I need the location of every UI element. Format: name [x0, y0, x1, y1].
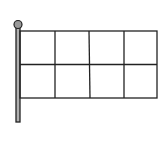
flag-illustration	[0, 0, 167, 143]
flag-pole	[14, 21, 22, 123]
flag-grid	[20, 31, 157, 98]
pole-finial-icon	[14, 21, 22, 29]
